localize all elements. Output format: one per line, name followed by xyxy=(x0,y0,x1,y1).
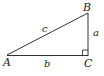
right-angle-marker xyxy=(83,50,89,56)
vertex-label-c: C xyxy=(84,57,93,70)
side-label-c: c xyxy=(42,23,48,34)
right-triangle-diagram: A B C c a b xyxy=(0,0,104,76)
side-label-a: a xyxy=(93,27,99,38)
vertex-label-a: A xyxy=(2,56,11,69)
side-c-hypotenuse xyxy=(7,13,88,55)
vertex-label-b: B xyxy=(82,1,91,14)
side-label-b: b xyxy=(44,58,50,69)
